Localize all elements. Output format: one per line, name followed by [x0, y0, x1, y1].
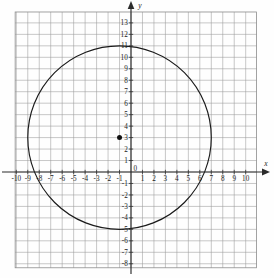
x-tick-label: -4	[82, 175, 88, 183]
y-tick-label: -6	[122, 237, 128, 245]
x-tick-label: -3	[94, 175, 100, 183]
x-tick-label: 3	[164, 175, 168, 183]
y-tick-label: -5	[122, 226, 128, 234]
y-tick-label: -8	[122, 260, 128, 268]
y-tick-label: 2	[124, 146, 128, 154]
x-tick-label: 2	[152, 175, 156, 183]
x-tick-label: 9	[232, 175, 236, 183]
y-tick-label: -4	[122, 214, 128, 222]
x-tick-label: 0	[133, 165, 137, 173]
x-tick-label: 10	[242, 175, 250, 183]
center-point-marker	[117, 135, 122, 140]
x-tick-label: -8	[36, 175, 42, 183]
y-tick-label: 13	[121, 19, 129, 27]
y-tick-label: -2	[122, 192, 128, 200]
x-tick-label: -9	[25, 175, 31, 183]
x-tick-label: -2	[105, 175, 111, 183]
y-tick-label: -1	[122, 180, 128, 188]
graph-figure: -10-9-8-7-6-5-4-3-2-1012345678910 -8-7-6…	[0, 0, 274, 278]
x-axis-label: x	[263, 159, 268, 168]
plot-background	[0, 0, 274, 278]
x-tick-label: 1	[141, 175, 145, 183]
y-tick-label: 12	[121, 31, 129, 39]
x-tick-label: 5	[187, 175, 191, 183]
x-tick-label: -7	[48, 175, 54, 183]
x-tick-label: 6	[198, 175, 202, 183]
y-tick-label: 6	[124, 100, 128, 108]
x-tick-label: 7	[209, 175, 213, 183]
x-tick-label: -10	[12, 175, 22, 183]
y-tick-label: 9	[124, 65, 128, 73]
y-tick-label: 1	[124, 157, 128, 165]
y-tick-label: -3	[122, 203, 128, 211]
x-tick-label: 8	[221, 175, 225, 183]
y-tick-label: 4	[124, 123, 128, 131]
y-tick-label: 8	[124, 77, 128, 85]
y-tick-label: 11	[121, 42, 128, 50]
x-tick-label: -6	[59, 175, 65, 183]
y-tick-label: 5	[124, 111, 128, 119]
x-tick-label: 4	[175, 175, 179, 183]
y-tick-label: 7	[124, 88, 128, 96]
coordinate-plane-svg: -10-9-8-7-6-5-4-3-2-1012345678910 -8-7-6…	[0, 0, 274, 278]
y-tick-label: -7	[122, 249, 128, 257]
y-tick-label: 3	[124, 134, 128, 142]
y-tick-label: 10	[121, 54, 129, 62]
plotted-points	[117, 135, 122, 140]
y-axis-label: y	[137, 1, 142, 10]
x-tick-label: -5	[71, 175, 77, 183]
